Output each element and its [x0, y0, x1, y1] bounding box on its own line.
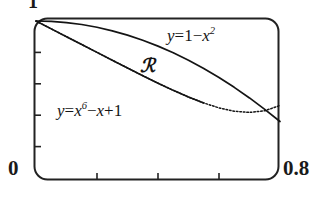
curve-upper-y: y: [167, 26, 175, 45]
curve-label-upper: y=1−x2: [167, 27, 215, 44]
viewport-frame: [35, 19, 279, 180]
curve-upper-x: x: [202, 26, 210, 45]
curve-lower-plus: +: [104, 101, 114, 120]
curve-upper-exponent: 2: [210, 25, 215, 36]
region-label: ℛ: [140, 56, 155, 75]
curve-lower-one: 1: [114, 101, 123, 120]
x-axis-min-label: 0: [8, 158, 19, 179]
curve-lower-equals: =: [65, 101, 75, 120]
y-axis-max-label: 1: [28, 0, 38, 11]
curve-lower-x2: x: [97, 101, 105, 120]
curve-lower-x1: x: [74, 101, 82, 120]
graph-figure: 1 0 0.8 y=1−x2 y=x6−x+1 ℛ: [0, 0, 322, 202]
x-axis-max-label: 0.8: [283, 158, 309, 179]
curve-lower-y: y: [57, 101, 65, 120]
curve-upper-minus: −: [193, 26, 203, 45]
curve-upper-equals: =: [175, 26, 185, 45]
curve-label-lower: y=x6−x+1: [57, 102, 122, 119]
curve-lower-minus: −: [87, 101, 97, 120]
curve-upper-one: 1: [184, 26, 193, 45]
plot-svg: [0, 0, 322, 202]
